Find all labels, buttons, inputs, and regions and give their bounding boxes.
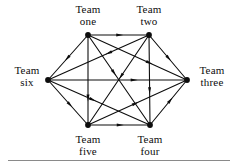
node-label-six-line1: Team [3, 65, 51, 77]
node-label-one-line1: Team [60, 4, 116, 16]
node-label-four: Team four [122, 134, 178, 157]
node-four [147, 122, 153, 128]
team-graph-figure: Team one Team two Team three Team four T… [0, 0, 236, 168]
node-five [85, 122, 91, 128]
arrowhead-six-to-four [89, 97, 96, 101]
arrowhead-one-to-two [116, 34, 123, 37]
node-label-two: Team two [121, 4, 177, 27]
arrowhead-six-to-three [131, 79, 138, 82]
node-label-three-line2: three [188, 77, 236, 89]
node-label-three-line1: Team [188, 65, 236, 77]
node-label-six-line2: six [3, 77, 51, 89]
node-label-one-line2: one [60, 16, 116, 28]
node-label-five-line2: five [60, 146, 116, 158]
node-label-five: Team five [60, 134, 116, 157]
node-label-four-line1: Team [122, 134, 178, 146]
node-label-six: Team six [3, 65, 51, 88]
arrowhead-two-to-six [105, 50, 112, 54]
node-two [146, 32, 152, 38]
node-label-one: Team one [60, 4, 116, 27]
node-label-four-line2: four [122, 146, 178, 158]
node-one [85, 32, 91, 38]
arrowhead-five-to-four [117, 124, 124, 127]
bottom-rule [8, 160, 230, 161]
node-label-five-line1: Team [60, 134, 116, 146]
node-label-three: Team three [188, 65, 236, 88]
node-label-two-line1: Team [121, 4, 177, 16]
arrowhead-two-to-four [148, 87, 151, 94]
node-label-two-line2: two [121, 16, 177, 28]
